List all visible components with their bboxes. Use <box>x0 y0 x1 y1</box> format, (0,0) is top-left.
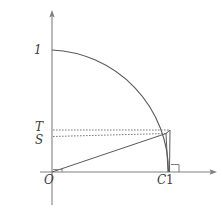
tangent-group <box>166 130 170 172</box>
tangent-label: T <box>35 121 43 133</box>
arc-to-tangent-connector <box>166 130 170 134</box>
y-axis-unit-label: 1 <box>34 44 42 56</box>
sine-label: S <box>35 134 43 146</box>
point-c-label: C <box>157 174 166 186</box>
radius-group <box>52 134 166 173</box>
tangent-vertical-segment <box>170 130 171 172</box>
dashed-lines-group <box>53 130 170 137</box>
radius-to-arc-point <box>52 134 166 173</box>
sliver-inner-edge <box>166 134 168 173</box>
figure-container: 1 T S O C 1 <box>0 0 223 219</box>
sine-level-dashed-line <box>53 134 166 137</box>
origin-label: O <box>44 174 54 186</box>
unit-circle-arc <box>52 50 169 172</box>
arc-group <box>52 50 169 172</box>
unit-circle-diagram <box>0 0 223 219</box>
x-axis-unit-label: 1 <box>166 174 174 186</box>
axes-group <box>40 10 217 205</box>
right-angle-marker-group <box>171 165 179 173</box>
right-angle-square-icon <box>171 165 179 173</box>
